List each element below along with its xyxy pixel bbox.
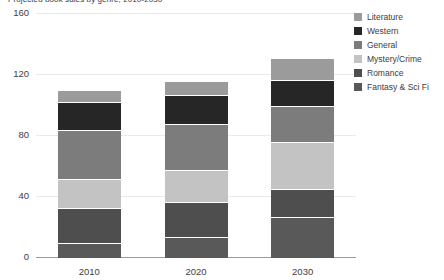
bar-segment[interactable] (58, 243, 121, 258)
bar-segment[interactable] (271, 217, 334, 258)
bar-segment[interactable] (58, 208, 121, 243)
bar-segment[interactable] (58, 90, 121, 102)
legend-item-label: Literature (367, 13, 403, 22)
stacked-bar-chart: Projected book sales by genre, 2010-2030… (0, 0, 444, 280)
bar-group-2020[interactable]: 2020 (165, 81, 228, 258)
bar-segment[interactable] (271, 58, 334, 79)
page-title: Projected book sales by genre, 2010-2030 (8, 0, 218, 4)
legend-item[interactable]: Western (354, 24, 442, 38)
legend-item-label: General (367, 41, 397, 50)
bar-group-2010[interactable]: 2010 (58, 90, 121, 258)
plot-area: 04080120160201020202030 (36, 14, 356, 258)
legend-item-label: Western (367, 27, 399, 36)
legend-swatch-icon (354, 83, 362, 91)
legend-swatch-icon (354, 55, 362, 63)
legend-swatch-icon (354, 41, 362, 49)
bar-segment[interactable] (165, 237, 228, 258)
gridline-160: 160 (36, 13, 356, 14)
bar-segment[interactable] (271, 142, 334, 189)
bar-group-2030[interactable]: 2030 (271, 58, 334, 258)
legend-swatch-icon (354, 27, 362, 35)
y-axis-tick-label: 40 (18, 191, 29, 201)
x-axis-tick-label: 2030 (271, 266, 334, 277)
bar-segment[interactable] (165, 202, 228, 237)
legend-item[interactable]: General (354, 38, 442, 52)
legend-item[interactable]: Mystery/Crime (354, 52, 442, 66)
legend-item-label: Fantasy & Sci Fi (367, 83, 429, 92)
bar-segment[interactable] (271, 80, 334, 106)
legend-item[interactable]: Literature (354, 10, 442, 24)
bar-segment[interactable] (165, 170, 228, 202)
x-axis-tick-label: 2020 (165, 266, 228, 277)
y-axis-tick-label: 80 (18, 130, 29, 140)
bar-segment[interactable] (271, 106, 334, 143)
bar-segment[interactable] (165, 81, 228, 95)
legend-item-label: Romance (367, 69, 403, 78)
y-axis-tick-label: 120 (13, 69, 29, 79)
bar-segment[interactable] (58, 130, 121, 179)
y-axis-tick-label: 0 (24, 252, 29, 262)
y-axis-tick-label: 160 (13, 8, 29, 18)
chart-legend: LiteratureWesternGeneralMystery/CrimeRom… (354, 10, 442, 94)
bar-segment[interactable] (58, 179, 121, 208)
legend-swatch-icon (354, 69, 362, 77)
legend-swatch-icon (354, 13, 362, 21)
legend-item-label: Mystery/Crime (367, 55, 422, 64)
bar-segment[interactable] (165, 124, 228, 170)
bar-segment[interactable] (271, 189, 334, 216)
legend-item[interactable]: Fantasy & Sci Fi (354, 80, 442, 94)
bar-segment[interactable] (165, 95, 228, 124)
x-axis-tick-label: 2010 (58, 266, 121, 277)
legend-item[interactable]: Romance (354, 66, 442, 80)
bar-segment[interactable] (58, 102, 121, 129)
